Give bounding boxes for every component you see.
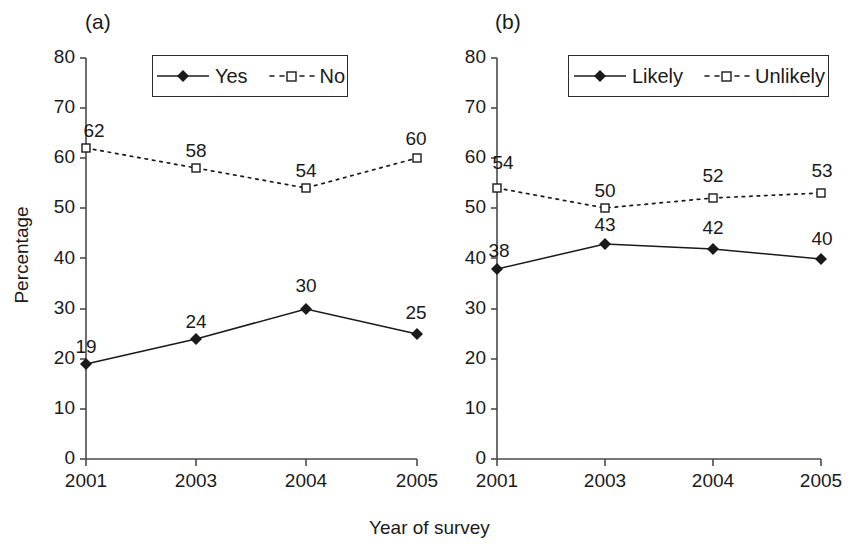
panel-a-yes-marker (411, 328, 423, 340)
panel-a-y-ticks (80, 58, 86, 459)
panel-b-xtick-2003: 2003 (570, 470, 640, 492)
panel-b-ytick-80: 80 (446, 46, 486, 68)
dotted-open-square-sample-icon (268, 68, 316, 84)
panel-a-no-marker (82, 144, 90, 152)
panel-b-label-unlikely-2005: 53 (800, 160, 844, 182)
panel-b-x-ticks (497, 459, 821, 466)
panel-a-label: (a) (85, 10, 111, 34)
panel-b-label-likely-2001: 38 (477, 240, 521, 262)
panel-a-label-no-2001: 62 (72, 120, 116, 142)
panel-b-label-unlikely-2003: 50 (583, 180, 627, 202)
panel-b-label-unlikely-2001: 54 (481, 152, 525, 174)
panel-a-label-yes-2001: 19 (64, 336, 108, 358)
panel-b-xtick-2001: 2001 (462, 470, 532, 492)
panel-a-label-no-2005: 60 (394, 128, 438, 150)
panel-b-legend-label-likely: Likely (632, 65, 683, 88)
panel-b-label-likely-2005: 40 (800, 228, 844, 250)
panel-b-axes (491, 58, 821, 466)
panel-a-series-no (82, 144, 421, 192)
panel-a-legend-label-yes: Yes (215, 65, 248, 88)
panel-a-ytick-30: 30 (35, 297, 75, 319)
panel-b-xtick-2005: 2005 (786, 470, 856, 492)
panel-a-xtick-2003: 2003 (161, 470, 231, 492)
panel-b-unlikely-line (497, 188, 821, 208)
panel-a-xtick-2001: 2001 (51, 470, 121, 492)
panel-b-unlikely-marker (601, 204, 609, 212)
panel-a-ytick-0: 0 (35, 447, 75, 469)
panel-a-ytick-10: 10 (35, 397, 75, 419)
panel-a-yes-marker (300, 303, 312, 315)
panel-a-axes (80, 58, 417, 466)
panel-b-label-likely-2003: 43 (583, 214, 627, 236)
panel-b-ytick-0: 0 (446, 447, 486, 469)
panel-b-likely-marker (491, 263, 503, 275)
solid-diamond-sample-icon (572, 68, 628, 84)
panel-b-likely-line (497, 244, 821, 269)
panel-a-label-yes-2005: 25 (394, 302, 438, 324)
dotted-open-square-sample-icon (703, 68, 751, 84)
panel-b-label-unlikely-2004: 52 (691, 165, 735, 187)
panel-b-series-unlikely (493, 184, 825, 212)
panel-a-no-marker (192, 164, 200, 172)
solid-diamond-sample-icon (155, 68, 211, 84)
panel-b-ytick-30: 30 (446, 297, 486, 319)
x-axis-title: Year of survey (0, 517, 859, 539)
figure-container: (a) (b) Year of survey Percentage 80 70 … (0, 0, 859, 560)
panel-a-xtick-2005: 2005 (382, 470, 452, 492)
panel-a-ytick-80: 80 (35, 46, 75, 68)
panel-b-legend-label-unlikely: Unlikely (755, 65, 825, 88)
panel-b-likely-marker (815, 253, 827, 265)
panel-a-ytick-60: 60 (35, 146, 75, 168)
panel-b-legend: Likely Unlikely (568, 55, 829, 97)
panel-b-likely-marker (599, 238, 611, 250)
panel-a-label-yes-2004: 30 (284, 275, 328, 297)
panel-b-unlikely-marker (709, 194, 717, 202)
panel-b-label-likely-2004: 42 (691, 217, 735, 239)
panel-b-ytick-60: 60 (446, 146, 486, 168)
panel-b-ytick-70: 70 (446, 96, 486, 118)
panel-a-ytick-70: 70 (35, 96, 75, 118)
panel-a-no-line (86, 148, 417, 188)
panel-b-label: (b) (495, 10, 521, 34)
panel-b-xtick-2004: 2004 (678, 470, 748, 492)
panel-a-label-no-2004: 54 (284, 160, 328, 182)
panel-a-series-yes (80, 303, 423, 370)
panel-b-unlikely-marker (493, 184, 501, 192)
panel-a-no-marker (413, 154, 421, 162)
panel-b-likely-marker (707, 243, 719, 255)
panel-a-legend-label-no: No (320, 65, 346, 88)
panel-a-legend-entry-no[interactable]: No (268, 65, 346, 88)
panel-b-series-likely (491, 238, 827, 275)
panel-a-label-yes-2003: 24 (174, 311, 218, 333)
panel-b-ytick-10: 10 (446, 397, 486, 419)
panel-a-yes-line (86, 309, 417, 364)
panel-a-legend: Yes No (152, 55, 348, 97)
panel-a-yes-marker (190, 333, 202, 345)
panel-a-label-no-2003: 58 (174, 140, 218, 162)
panel-a-legend-entry-yes[interactable]: Yes (155, 65, 248, 88)
y-axis-title: Percentage (11, 185, 33, 325)
panel-a-no-marker (302, 184, 310, 192)
panel-b-legend-entry-unlikely[interactable]: Unlikely (703, 65, 825, 88)
panel-a-ytick-50: 50 (35, 196, 75, 218)
panel-a-x-ticks (86, 459, 417, 466)
panel-a-ytick-40: 40 (35, 247, 75, 269)
panel-b-legend-entry-likely[interactable]: Likely (572, 65, 683, 88)
panel-b-unlikely-marker (817, 189, 825, 197)
panel-b-ytick-50: 50 (446, 196, 486, 218)
panel-b-ytick-20: 20 (446, 347, 486, 369)
panel-a-xtick-2004: 2004 (271, 470, 341, 492)
